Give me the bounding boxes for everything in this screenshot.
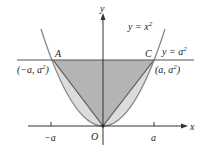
tick-neg-a-label: −a (44, 132, 56, 143)
curve-label: y = x2 (127, 20, 153, 32)
point-A-label: A (54, 48, 62, 59)
origin-point (102, 125, 105, 128)
parabola-diagram: y x y = x2 y = a2 A C (−a, a2) (a, a2) −… (0, 0, 203, 151)
axis-x-label: x (189, 121, 195, 132)
point-C-coords: (a, a2) (155, 63, 181, 76)
origin-label: O (91, 131, 98, 142)
y-axis-arrow-icon (101, 13, 106, 20)
point-A-coords: (−a, a2) (17, 63, 50, 76)
x-axis-arrow-icon (181, 124, 188, 129)
point-C-label: C (145, 48, 152, 59)
line-label: y = a2 (161, 45, 187, 57)
tick-pos-a-label: a (151, 132, 156, 143)
axis-y-label: y (99, 3, 105, 14)
